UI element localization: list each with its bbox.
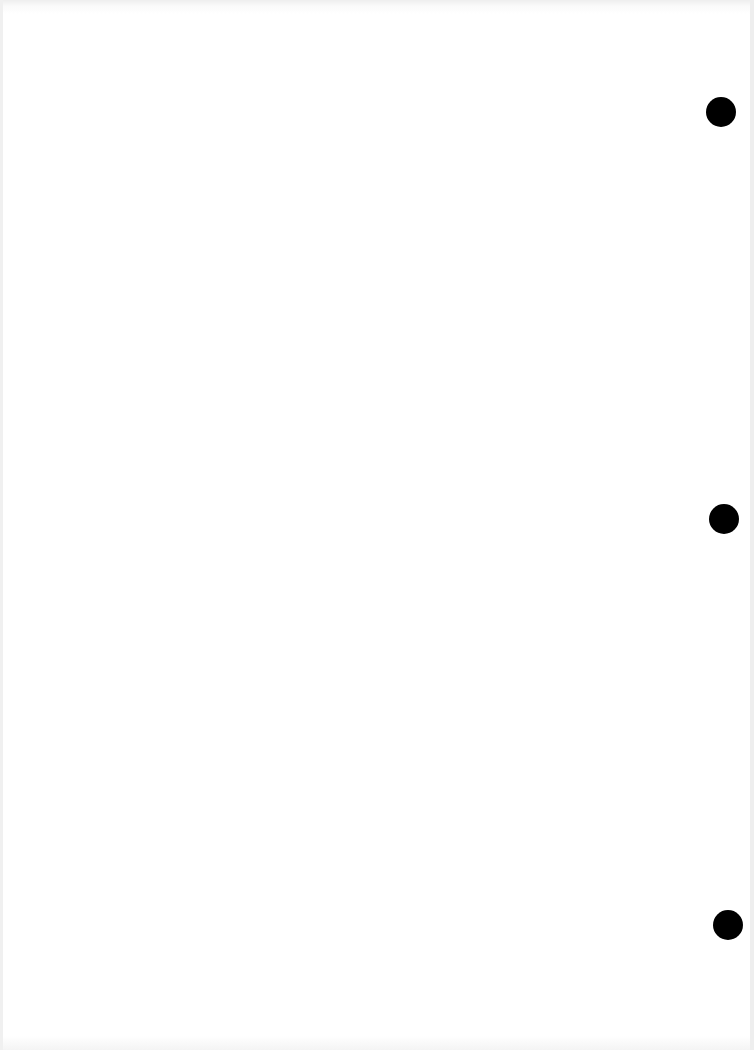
page-edge-left — [0, 0, 3, 1050]
page-edge-right — [750, 0, 754, 1050]
punch-hole-top — [706, 97, 736, 127]
punch-hole-middle — [709, 504, 739, 534]
blank-page — [0, 0, 754, 1050]
punch-hole-bottom — [713, 910, 743, 940]
